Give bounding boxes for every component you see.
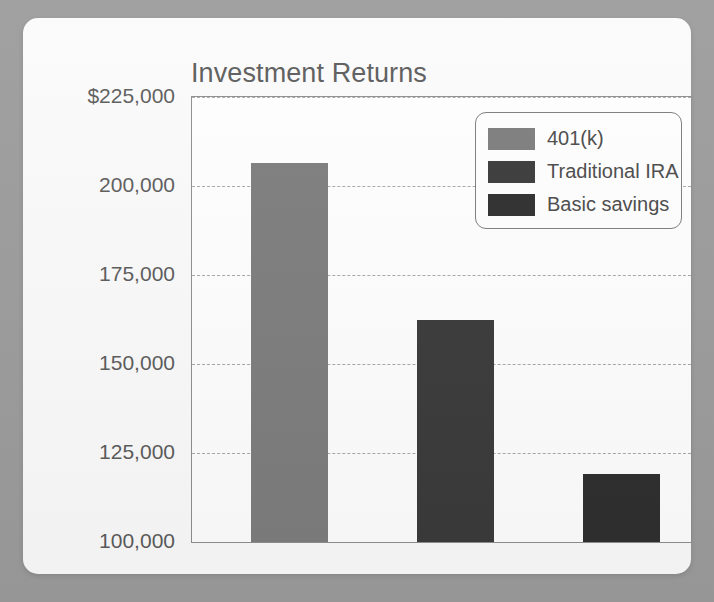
legend-item-label: Traditional IRA — [547, 160, 679, 183]
bar-traditional-ira[interactable] — [417, 320, 494, 542]
y-axis-tick-labels: 100,000125,000150,000175,000200,000$225,… — [23, 96, 183, 543]
page-title: Investment Returns — [191, 58, 427, 89]
y-axis-tick-label: 125,000 — [99, 440, 175, 464]
legend-swatch-icon — [488, 161, 535, 183]
chart-legend[interactable]: 401(k)Traditional IRABasic savings — [475, 112, 682, 229]
y-axis-tick-label: 200,000 — [99, 173, 175, 197]
y-axis-tick-label: $225,000 — [87, 84, 175, 108]
screenshot-canvas: Investment Returns 100,000125,000150,000… — [0, 0, 714, 602]
legend-item-label: Basic savings — [547, 193, 669, 216]
legend-item[interactable]: Traditional IRA — [488, 155, 671, 188]
y-axis-tick-label: 150,000 — [99, 351, 175, 375]
gridline — [192, 97, 691, 98]
bar-401-k[interactable] — [251, 163, 328, 542]
legend-item[interactable]: 401(k) — [488, 122, 671, 155]
legend-swatch-icon — [488, 194, 535, 216]
chart-card: Investment Returns 100,000125,000150,000… — [23, 18, 691, 574]
y-axis-tick-label: 100,000 — [99, 529, 175, 553]
legend-swatch-icon — [488, 128, 535, 150]
legend-item-label: 401(k) — [547, 127, 604, 150]
bar-basic-savings[interactable] — [583, 474, 660, 542]
y-axis-tick-label: 175,000 — [99, 262, 175, 286]
legend-item[interactable]: Basic savings — [488, 188, 671, 221]
